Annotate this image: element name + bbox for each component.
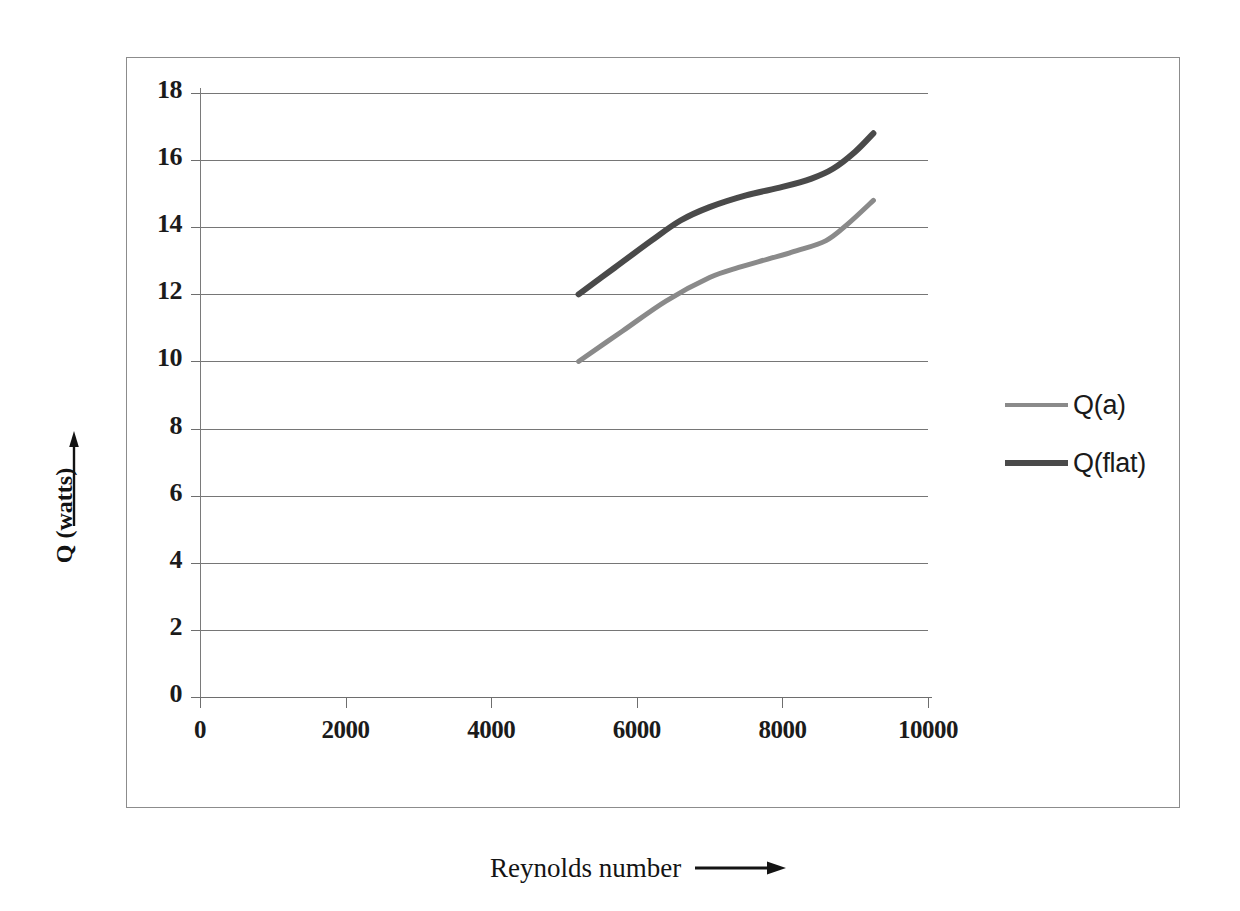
chart-legend: Q(a) Q(flat) [1005,376,1205,492]
x-axis-title-group: Reynolds number [490,848,787,888]
y-axis-title-group: Q (watts) [40,430,84,660]
series-line-q-a [579,200,874,361]
legend-label-q-flat: Q(flat) [1073,448,1146,479]
x-axis-title: Reynolds number [490,853,681,884]
legend-label-q-a: Q(a) [1073,390,1126,421]
chart-figure: 024681012141618 0200040006000800010000 Q… [0,0,1240,911]
legend-item-q-flat: Q(flat) [1005,434,1205,492]
legend-swatch-q-flat [1005,460,1068,466]
legend-swatch-q-a [1005,403,1068,407]
arrow-right-icon [695,859,787,877]
legend-item-q-a: Q(a) [1005,376,1205,434]
y-axis-title: Q (watts) [51,430,78,602]
